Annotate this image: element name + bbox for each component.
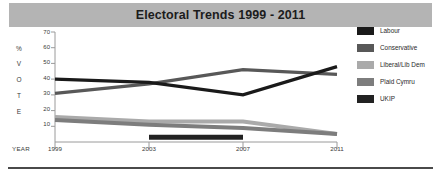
legend-swatch-labour bbox=[357, 27, 374, 35]
legend-label-ukip: UKIP bbox=[380, 95, 395, 102]
x-axis-title: YEAR bbox=[12, 145, 30, 152]
xtick-label-2007: 2007 bbox=[226, 145, 260, 152]
xtick-label-2003: 2003 bbox=[132, 145, 166, 152]
legend-swatch-plaid-cymru bbox=[357, 78, 374, 86]
chart-page: Electoral Trends 1999 - 2011 % V O T E 7… bbox=[0, 0, 441, 173]
legend-label-liberal-lib-dem: Liberal/Lib Dem bbox=[380, 61, 425, 68]
legend-label-plaid-cymru: Plaid Cymru bbox=[380, 78, 415, 85]
xtick-label-1999: 1999 bbox=[38, 145, 72, 152]
legend-item-ukip[interactable]: UKIP bbox=[357, 90, 441, 107]
legend-swatch-liberal-lib-dem bbox=[357, 61, 374, 69]
legend-swatch-ukip bbox=[357, 95, 374, 103]
xtick-label-2011: 2011 bbox=[320, 145, 354, 152]
page-title: Electoral Trends 1999 - 2011 bbox=[136, 8, 306, 22]
legend-item-labour[interactable]: Labour bbox=[357, 22, 441, 39]
legend-item-plaid-cymru[interactable]: Plaid Cymru bbox=[357, 73, 441, 90]
legend-item-conservative[interactable]: Conservative bbox=[357, 39, 441, 56]
legend-item-liberal-lib-dem[interactable]: Liberal/Lib Dem bbox=[357, 56, 441, 73]
legend-label-conservative: Conservative bbox=[380, 44, 417, 51]
chart-legend: Labour Conservative Liberal/Lib Dem Plai… bbox=[357, 22, 441, 107]
legend-swatch-conservative bbox=[357, 44, 374, 52]
legend-label-labour: Labour bbox=[380, 27, 400, 34]
footer-divider bbox=[8, 167, 433, 169]
